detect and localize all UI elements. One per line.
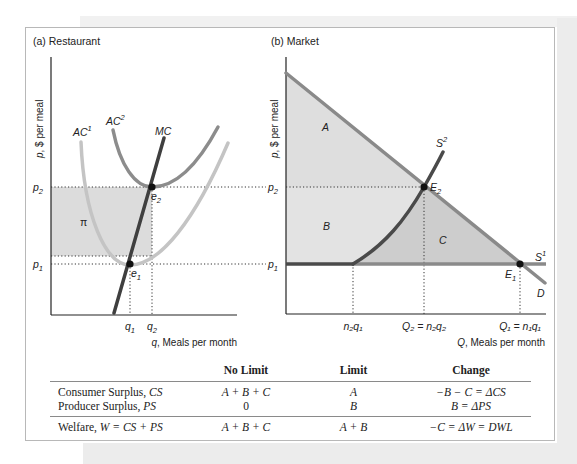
welfare-table: No Limit Limit Change Consumer Surplus, …: [50, 360, 531, 434]
e1-label: e1: [131, 267, 141, 282]
cell-limit: A + B: [296, 421, 411, 433]
q2-label: q2: [147, 320, 158, 335]
market-p2-label: p2: [267, 181, 279, 196]
restaurant-p1-label: p1: [32, 258, 43, 273]
s2-label: S2: [436, 135, 448, 149]
n2q1-label: n₂q₁: [344, 320, 364, 332]
s1-label: S1: [535, 249, 546, 263]
table-row: Producer Surplus, PS 0 B B = ΔPS: [50, 399, 531, 413]
ac1-label: AC1: [72, 124, 92, 138]
restaurant-y-axis-label: p, $ per meal: [34, 100, 45, 159]
cell-no-limit: 0: [196, 400, 296, 412]
table-header-row: No Limit Limit Change: [50, 360, 531, 380]
header-change: Change: [411, 364, 531, 376]
restaurant-x-axis-label: q, Meals per month: [151, 337, 237, 348]
cell-limit: A: [296, 386, 411, 398]
cell-no-limit: A + B + C: [196, 386, 296, 398]
point-E1: [516, 260, 523, 267]
restaurant-panel-title: (a) Restaurant: [33, 35, 100, 47]
cell-limit: B: [296, 400, 411, 412]
cell-change: −C = ΔW = DWL: [411, 421, 531, 433]
profit-area: [51, 187, 152, 256]
E1-label: E1: [505, 268, 516, 283]
table-divider: [50, 381, 531, 382]
demand-label: D: [537, 287, 545, 299]
e2-label: e2: [151, 190, 162, 205]
table-row: Welfare, W = CS + PS A + B + C A + B −C …: [50, 420, 531, 434]
market-panel-title: (b) Market: [271, 35, 319, 47]
row-label: Producer Surplus, PS: [50, 400, 196, 412]
cell-change: −B − C = ΔCS: [411, 386, 531, 398]
market-p1-label: p1: [267, 258, 278, 273]
market-q2-label: Q₂ = n₂q₂: [402, 320, 446, 332]
header-no-limit: No Limit: [196, 364, 296, 376]
market-y-axis-label: p, $ per meal: [269, 100, 280, 159]
table-divider: [50, 416, 531, 417]
point-E2: [420, 183, 427, 190]
market-q1-label: Q₁ = n₁q₁: [499, 320, 541, 332]
market-x-axis-label: Q, Meals per month: [457, 337, 545, 348]
row-label: Consumer Surplus, CS: [50, 386, 196, 398]
profit-area-label: π: [80, 216, 87, 228]
ac2-label: AC2: [105, 113, 126, 127]
row-label: Welfare, W = CS + PS: [50, 421, 196, 433]
area-a-label: A: [321, 121, 329, 133]
table-row: Consumer Surplus, CS A + B + C A −B − C …: [50, 385, 531, 399]
cell-change: B = ΔPS: [411, 400, 531, 412]
area-b-label: B: [323, 220, 330, 232]
restaurant-p2-label: p2: [32, 181, 44, 196]
restaurant-panel: (a) Restaurant π p, $ per meal AC1 AC2 M…: [32, 35, 266, 348]
q1-label: q1: [125, 320, 135, 335]
header-limit: Limit: [296, 364, 411, 376]
mc-label: MC: [155, 125, 172, 137]
area-c-label: C: [439, 234, 447, 246]
cell-no-limit: A + B + C: [196, 421, 296, 433]
market-panel: (b) Market A B C p, $ per meal S2 S1 D: [267, 35, 546, 348]
